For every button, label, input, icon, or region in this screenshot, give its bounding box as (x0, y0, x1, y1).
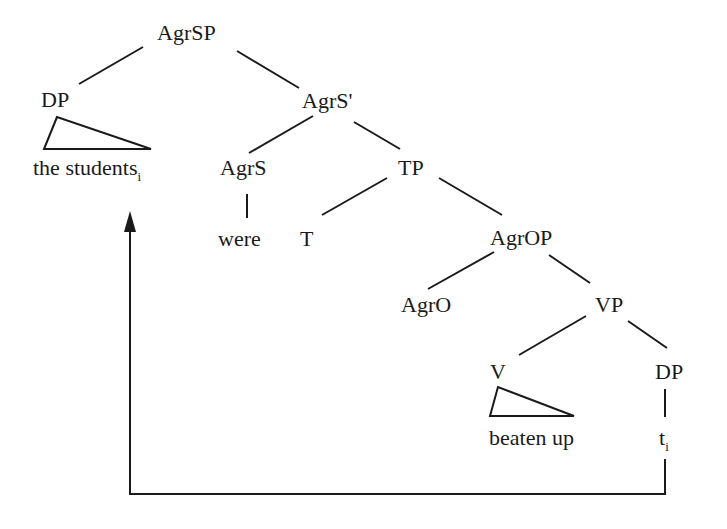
node-t: T (300, 228, 313, 250)
arrow-head-icon (124, 211, 136, 232)
branch-agrsbar-tp (354, 122, 400, 149)
node-tp: TP (398, 157, 424, 179)
node-were: were (218, 228, 261, 250)
branch-agrsp-dp (79, 47, 143, 84)
node-vp: VP (595, 294, 623, 316)
node-agro: AgrO (401, 294, 451, 316)
node-agrs-bar: AgrS' (302, 90, 352, 112)
tree-branches (0, 0, 727, 529)
trace-index-subscript: i (665, 439, 669, 454)
branch-agrsp-agrsbar (237, 51, 299, 88)
node-v: V (490, 361, 506, 383)
node-beaten-up: beaten up (489, 427, 574, 449)
the-students-text: the students (33, 155, 138, 180)
v-triangle (490, 387, 574, 416)
branch-agrsbar-agrs (249, 116, 313, 153)
branch-agrop-agro (428, 252, 494, 289)
index-subscript: i (138, 169, 142, 184)
branch-tp-t (322, 178, 387, 215)
syntax-tree-diagram: AgrSP DP AgrS' the studentsi AgrS TP wer… (0, 0, 727, 529)
dp-triangle (44, 117, 151, 149)
node-agrop: AgrOP (490, 227, 552, 249)
branch-agrop-vp (549, 255, 590, 283)
node-dp-subject: DP (41, 89, 69, 111)
node-the-students: the studentsi (33, 157, 141, 179)
movement-arrow-line (130, 230, 665, 494)
node-trace: ti (659, 427, 669, 449)
node-agrs: AgrS (220, 157, 266, 179)
node-dp-object: DP (655, 361, 683, 383)
branch-vp-v (519, 316, 586, 355)
branch-tp-agrop (439, 178, 502, 215)
node-agrsp: AgrSP (157, 22, 216, 44)
branch-vp-dp (628, 321, 667, 348)
